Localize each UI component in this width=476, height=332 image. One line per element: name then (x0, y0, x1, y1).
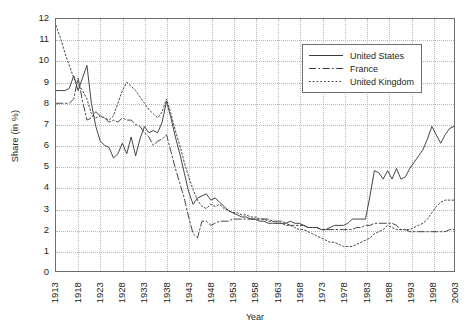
legend-line-swatch (308, 50, 344, 61)
y-tick-label: 2 (44, 225, 49, 235)
series-line (56, 78, 454, 238)
y-tick-label: 8 (44, 98, 49, 108)
y-axis-tick-labels: 0123456789101112 (26, 0, 53, 292)
legend-item: France (308, 62, 414, 75)
y-tick-label: 1 (44, 246, 49, 256)
y-axis-title-text: Share (in %) (10, 110, 20, 162)
y-tick-label: 11 (39, 34, 49, 44)
x-tick-label: 2003 (435, 274, 475, 300)
legend-label: France (350, 64, 378, 74)
y-tick-label: 4 (44, 183, 49, 193)
y-tick-label: 3 (44, 204, 49, 214)
chart-legend: United StatesFranceUnited Kingdom (302, 44, 422, 93)
legend-label: United States (350, 51, 404, 61)
legend-item: United Kingdom (308, 75, 414, 88)
y-tick-label: 7 (44, 119, 49, 129)
y-tick-label: 6 (44, 140, 49, 150)
y-axis-title: Share (in %) (4, 0, 26, 272)
x-tick-label-text: 2003 (450, 282, 460, 303)
y-tick-label: 9 (44, 77, 49, 87)
x-axis-tick-labels: 1913191819231928193319381943194819531958… (55, 274, 455, 314)
legend-label: United Kingdom (350, 77, 414, 87)
legend-line-swatch (308, 76, 344, 87)
chart-figure: Share (in %) 0123456789101112 1913191819… (0, 0, 476, 332)
legend-line-swatch (308, 63, 344, 74)
y-tick-label: 5 (44, 161, 49, 171)
legend-item: United States (308, 49, 414, 62)
x-axis-title: Year (55, 312, 455, 322)
y-tick-label: 10 (38, 56, 49, 66)
y-tick-label: 12 (38, 13, 49, 23)
